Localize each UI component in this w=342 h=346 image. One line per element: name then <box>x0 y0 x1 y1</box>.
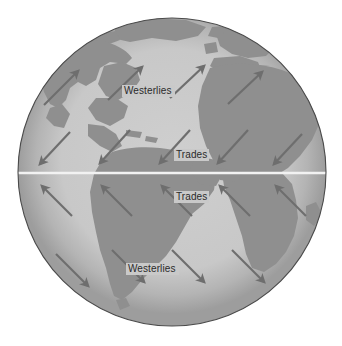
globe-diagram: Westerlies Trades Trades Westerlies <box>0 0 342 346</box>
british-isles <box>204 42 218 54</box>
label-southern-westerlies: Westerlies <box>128 263 176 274</box>
label-northeast-trades: Trades <box>176 149 207 160</box>
scandinavia-landmass <box>238 20 280 38</box>
label-southeast-trades: Trades <box>176 191 207 202</box>
label-northern-westerlies: Westerlies <box>124 85 172 96</box>
globe-figure: Westerlies Trades Trades Westerlies <box>0 0 342 346</box>
